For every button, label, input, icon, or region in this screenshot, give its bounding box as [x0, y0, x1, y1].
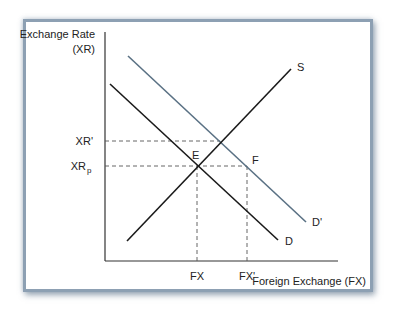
- point-e-label: E: [192, 149, 199, 161]
- supply-curve: [127, 69, 291, 241]
- demand-prime-label: D': [312, 216, 322, 228]
- y-tick-xr-prime: XR': [76, 135, 93, 147]
- y-tick-xr-p: XR: [71, 160, 86, 172]
- x-tick-fx: FX: [190, 270, 205, 282]
- y-axis-title-line2: (XR): [72, 43, 95, 55]
- x-axis-title: Foreign Exchange (FX): [252, 275, 366, 287]
- point-f-label: F: [252, 154, 259, 166]
- y-axis-title-line1: Exchange Rate: [20, 28, 95, 40]
- supply-demand-diagram: Exchange Rate (XR) XR' XR p FX FX' Forei…: [0, 0, 398, 310]
- supply-label: S: [297, 61, 304, 73]
- y-tick-xr-p-subscript: p: [87, 166, 92, 175]
- demand-label: D: [285, 235, 293, 247]
